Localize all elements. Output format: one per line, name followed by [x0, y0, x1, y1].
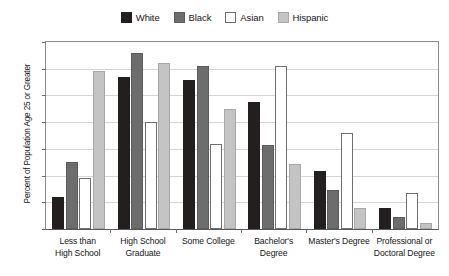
x-tick-mark — [372, 229, 373, 233]
legend-swatch-white — [121, 12, 132, 23]
bar[interactable] — [341, 133, 353, 229]
bar[interactable] — [183, 80, 195, 229]
bar-group — [111, 42, 176, 229]
plot-area: 0%5%10%15%20%25%30%35% — [45, 41, 439, 230]
bar[interactable] — [248, 102, 260, 229]
legend-swatch-asian — [225, 12, 236, 23]
bar-groups — [46, 42, 438, 229]
bar[interactable] — [354, 208, 366, 229]
legend-label-black: Black — [189, 12, 212, 23]
bar-group — [46, 42, 111, 229]
x-axis-label: Professional orDoctoral Degree — [364, 236, 445, 259]
x-tick-mark — [110, 229, 111, 233]
bar[interactable] — [289, 164, 301, 229]
bar[interactable] — [79, 178, 91, 229]
bar[interactable] — [393, 217, 405, 229]
bar[interactable] — [118, 77, 130, 229]
bar[interactable] — [158, 63, 170, 229]
y-tick-mark — [42, 229, 46, 230]
bar[interactable] — [93, 71, 105, 229]
legend-label-asian: Asian — [240, 12, 263, 23]
bar[interactable] — [210, 144, 222, 229]
legend-item-asian: Asian — [225, 12, 263, 23]
bar[interactable] — [406, 193, 418, 229]
bar[interactable] — [145, 122, 157, 229]
legend-swatch-black — [174, 12, 185, 23]
x-tick-mark — [176, 229, 177, 233]
chart-legend: White Black Asian Hispanic — [0, 12, 449, 23]
legend-item-black: Black — [174, 12, 212, 23]
x-tick-mark — [306, 229, 307, 233]
bar[interactable] — [52, 197, 64, 229]
legend-swatch-hispanic — [278, 12, 289, 23]
bar[interactable] — [314, 171, 326, 229]
bar-chart: White Black Asian Hispanic Percent of Po… — [0, 0, 449, 276]
bar[interactable] — [275, 66, 287, 229]
bar-group — [307, 42, 372, 229]
bar[interactable] — [379, 208, 391, 229]
bar[interactable] — [224, 109, 236, 229]
bar[interactable] — [66, 162, 78, 229]
bar-group — [373, 42, 438, 229]
legend-item-white: White — [121, 12, 160, 23]
legend-label-hispanic: Hispanic — [293, 12, 329, 23]
bar[interactable] — [262, 145, 274, 229]
bar-group — [242, 42, 307, 229]
bar-group — [177, 42, 242, 229]
bar[interactable] — [327, 190, 339, 229]
legend-item-hispanic: Hispanic — [278, 12, 329, 23]
bar[interactable] — [197, 66, 209, 229]
legend-label-white: White — [136, 12, 160, 23]
bar[interactable] — [420, 223, 432, 229]
bar[interactable] — [131, 53, 143, 229]
y-axis-title: Percent of Population Age 25 or Greater — [23, 39, 32, 229]
x-tick-mark — [241, 229, 242, 233]
